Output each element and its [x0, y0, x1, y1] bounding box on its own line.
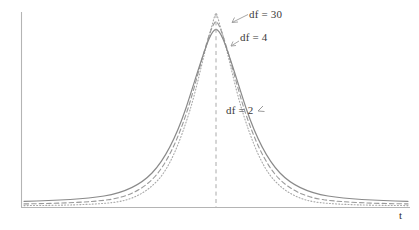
- series-label-df-4: df = 4: [240, 31, 268, 43]
- chart-plot-area: [0, 0, 419, 230]
- series-label-df-30: df = 30: [249, 8, 282, 20]
- series-label-df-2: df = 2: [226, 104, 254, 116]
- x-axis-label: t: [399, 209, 402, 221]
- curve-df-30: [24, 13, 408, 205]
- t-distribution-chart: df = 30 df = 4 df = 2 t: [0, 0, 419, 230]
- leader-tick-df-2: [258, 106, 265, 112]
- curve-df-2: [24, 29, 408, 201]
